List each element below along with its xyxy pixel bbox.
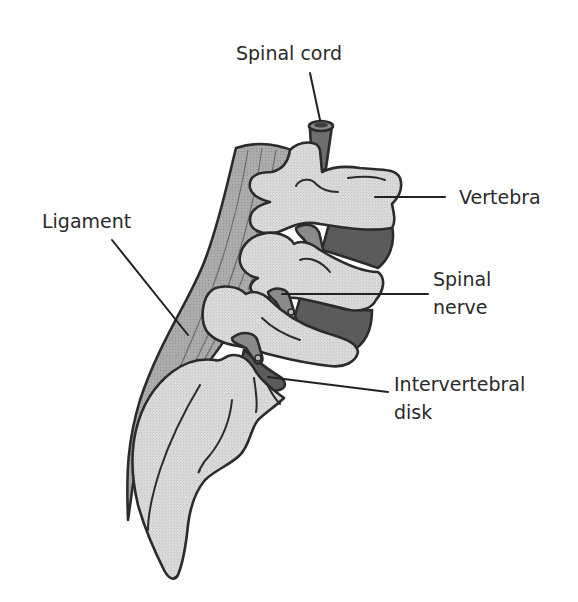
leader-ligament bbox=[112, 240, 188, 335]
spine-diagram: Spinal cord Vertebra Ligament Spinal ner… bbox=[0, 0, 578, 602]
label-intervertebral-disk-line1: Intervertebral bbox=[394, 373, 525, 395]
label-spinal-nerve-line1: Spinal bbox=[433, 268, 491, 290]
label-ligament: Ligament bbox=[42, 210, 131, 232]
label-intervertebral-disk-line2: disk bbox=[394, 401, 432, 423]
label-spinal-nerve-line2: nerve bbox=[433, 296, 487, 318]
label-spinal-cord: Spinal cord bbox=[236, 42, 342, 64]
sacrum-coccyx bbox=[132, 355, 284, 579]
leader-spinal-cord bbox=[310, 73, 320, 120]
label-vertebra: Vertebra bbox=[459, 186, 541, 208]
